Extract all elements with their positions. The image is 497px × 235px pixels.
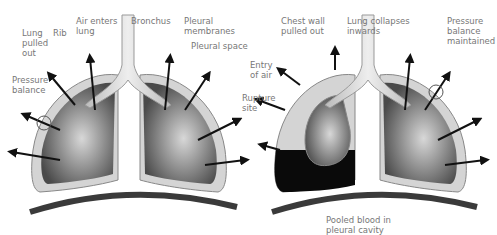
label-pressure-balance: Pressure balance <box>12 75 48 95</box>
label-pooled-blood: Pooled blood in pleural cavity <box>326 215 391 235</box>
label-pleural-membranes: Pleural membranes <box>184 16 235 36</box>
label-chest-wall-pulled-out: Chest wall pulled out <box>281 16 325 36</box>
label-lung-pulled-out: Lung pulled out <box>22 28 48 58</box>
label-pleural-space: Pleural space <box>191 41 248 51</box>
label-rib: Rib <box>53 28 67 38</box>
label-lung-collapses-inwards: Lung collapses inwards <box>347 16 410 36</box>
label-pressure-balance-maintained: Pressure balance maintained <box>447 16 495 46</box>
label-rupture-site: Rupture site <box>242 93 276 113</box>
label-air-enters-lung: Air enters lung <box>76 16 117 36</box>
label-entry-of-air: Entry of air <box>250 60 273 80</box>
lung-diagram <box>0 0 497 235</box>
label-bronchus: Bronchus <box>131 16 171 26</box>
